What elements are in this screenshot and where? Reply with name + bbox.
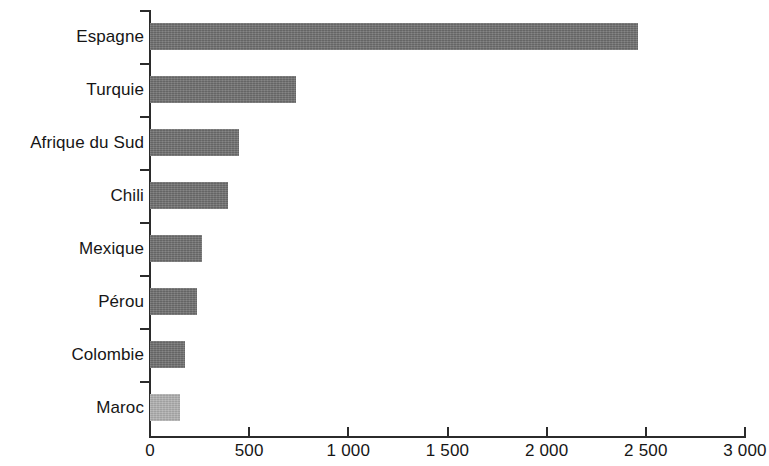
bar-afrique-du-sud [150, 129, 239, 156]
chart-row: Colombie [0, 328, 769, 381]
chart-row: Espagne [0, 10, 769, 63]
x-axis-tick-label: 1 000 [327, 441, 371, 461]
bar-maroc [150, 394, 180, 421]
x-axis-tick-label: 3 000 [723, 441, 767, 461]
category-label: Mexique [79, 222, 144, 275]
x-axis-tick [645, 427, 647, 438]
bar-turquie [150, 76, 296, 103]
category-label: Turquie [86, 63, 144, 116]
x-axis-tick-label: 2 000 [525, 441, 569, 461]
x-axis-tick [546, 427, 548, 438]
x-axis-tick [347, 427, 349, 438]
chart-row: Afrique du Sud [0, 116, 769, 169]
bar-espagne [150, 23, 638, 50]
x-axis-tick [447, 427, 449, 438]
category-label: Espagne [76, 10, 144, 63]
chart-row: Chili [0, 169, 769, 222]
x-axis-tick-label: 500 [235, 441, 264, 461]
bar-chart: Espagne Turquie Afrique du Sud Chili Mex… [0, 0, 769, 466]
category-label: Colombie [71, 328, 144, 381]
category-label: Afrique du Sud [30, 116, 144, 169]
chart-row: Pérou [0, 275, 769, 328]
x-axis-tick-label: 1 500 [426, 441, 470, 461]
bar-chili [150, 182, 228, 209]
x-axis-tick [248, 427, 250, 438]
x-axis-tick-label: 0 [145, 441, 155, 461]
chart-row: Maroc [0, 381, 769, 434]
chart-row: Mexique [0, 222, 769, 275]
category-label: Maroc [96, 381, 144, 434]
x-axis-tick [149, 427, 151, 438]
bar-perou [150, 288, 197, 315]
x-axis-tick [744, 427, 746, 438]
bar-mexique [150, 235, 202, 262]
chart-row: Turquie [0, 63, 769, 116]
category-label: Pérou [98, 275, 144, 328]
bar-colombie [150, 341, 185, 368]
x-axis-tick-label: 2 500 [624, 441, 668, 461]
category-label: Chili [110, 169, 144, 222]
